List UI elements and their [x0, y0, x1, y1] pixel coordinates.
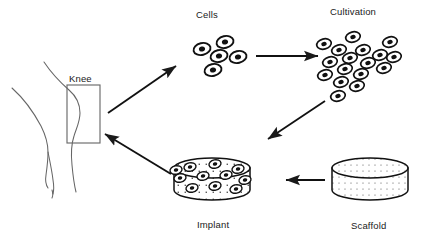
arrow-cultivation-to-implant: [268, 101, 325, 139]
label-cultivation: Cultivation: [330, 6, 376, 17]
label-scaffold: Scaffold: [351, 220, 386, 231]
knee-highlight-box: [67, 85, 100, 143]
diagram-canvas: [0, 0, 434, 243]
arrow-knee-to-cells: [108, 66, 176, 113]
label-implant: Implant: [197, 219, 229, 230]
label-knee: Knee: [69, 73, 92, 84]
label-cells: Cells: [196, 9, 218, 20]
diagram-svg: [0, 0, 434, 243]
cultivation-cluster: [316, 30, 403, 102]
scaffold-disc: [332, 158, 408, 200]
implant-disc: [169, 158, 252, 200]
cells-cluster: [192, 34, 247, 77]
arrow-implant-to-knee: [105, 134, 171, 174]
